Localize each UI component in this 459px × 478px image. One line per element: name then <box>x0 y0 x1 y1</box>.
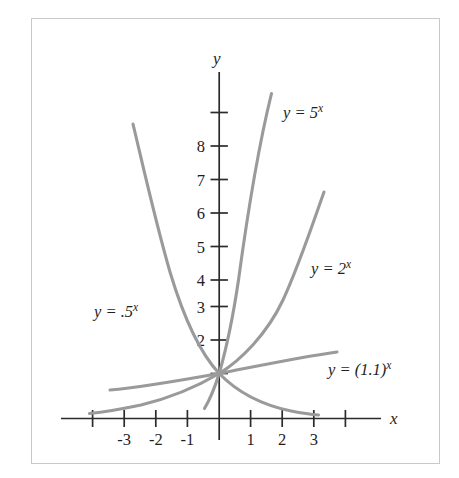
x-tick-label-3: 3 <box>310 430 318 449</box>
curve-label-half-lhs: y = .5 <box>92 302 133 321</box>
y-axis-label: y <box>211 49 221 68</box>
curve-label-5-to-the-x: y = 5x <box>281 102 324 122</box>
curves-group <box>90 94 338 416</box>
x-axis-group: -3 -2 -1 1 2 3 x <box>61 409 398 449</box>
curve-label-5-lhs: y = 5 <box>281 103 318 122</box>
y-tick-label-4: 4 <box>197 271 205 290</box>
y-tick-label-5: 5 <box>197 238 205 257</box>
curve-label-1point1-to-the-x: y = (1.1)x <box>326 359 392 379</box>
y-tick-label-7: 7 <box>197 171 205 190</box>
curve-label-2-lhs: y = 2 <box>309 259 346 278</box>
y-axis-group: 8 7 6 5 4 3 2 y <box>197 49 228 440</box>
x-tick-label-1: 1 <box>246 430 254 449</box>
x-tick-label--3: -3 <box>117 430 131 449</box>
curve-label-1point1-lhs: y = (1.1) <box>326 360 386 379</box>
curve-label-2-exponent: x <box>345 258 352 270</box>
y-tick-label-8: 8 <box>197 137 205 156</box>
x-axis-label: x <box>389 409 398 428</box>
figure-root: -3 -2 -1 1 2 3 x 8 7 6 5 4 3 <box>0 0 459 478</box>
exponential-functions-plot: -3 -2 -1 1 2 3 x 8 7 6 5 4 3 <box>0 0 459 478</box>
curve-label-2-to-the-x: y = 2x <box>309 258 352 278</box>
x-tick-label-2: 2 <box>278 430 286 449</box>
curve-label-5-exponent: x <box>317 102 324 114</box>
x-tick-label--1: -1 <box>181 430 195 449</box>
curve-label-1point1-exponent: x <box>385 359 392 371</box>
y-tick-label-3: 3 <box>197 298 205 317</box>
curve-label-half-exponent: x <box>132 301 139 313</box>
curve-label-half-to-the-x: y = .5x <box>92 301 139 321</box>
x-tick-label--2: -2 <box>149 430 163 449</box>
y-tick-label-6: 6 <box>197 204 205 223</box>
